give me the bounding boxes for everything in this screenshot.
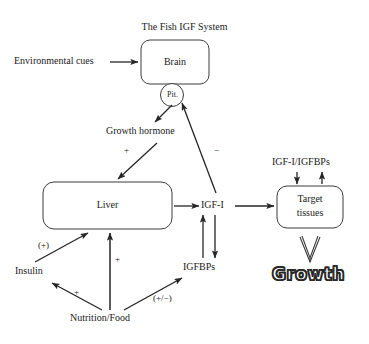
node-growth-hormone: Growth hormone <box>106 126 175 136</box>
edge-label-nutrition-to-igfbps: (+/−) <box>153 294 172 303</box>
edge-label-nutrition-to-liver: + <box>115 255 120 264</box>
edge-pituitary-to-gh <box>155 105 172 122</box>
edge-igf1-to-pituitary <box>182 103 216 193</box>
edge-label-gh-to-liver: + <box>124 146 129 155</box>
node-insulin: Insulin <box>15 266 43 276</box>
node-pituitary: Pit. <box>161 91 184 99</box>
node-environmental-cues: Environmental cues <box>14 56 94 66</box>
node-igf1-igfbps: IGF-I/IGFBPs <box>272 157 330 167</box>
node-nutrition-food: Nutrition/Food <box>70 313 130 323</box>
edge-label-igf1-to-pituitary: − <box>214 146 219 155</box>
node-target-tissues-line1: Target <box>277 194 343 204</box>
edge-label-nutrition-to-insulin: + <box>74 288 79 297</box>
page-title: The Fish IGF System <box>0 22 369 32</box>
node-growth: Growth <box>272 264 345 284</box>
diagram-connectors <box>0 0 369 344</box>
node-brain: Brain <box>141 57 209 67</box>
diagram-canvas: The Fish IGF System Environmental cues B… <box>0 0 369 344</box>
node-igfbps: IGFBPs <box>183 262 215 272</box>
node-target-tissues-line2: tissues <box>277 208 343 218</box>
growth-block-arrow <box>300 236 320 262</box>
node-liver: Liver <box>43 200 172 210</box>
node-igf1: IGF-I <box>201 200 224 210</box>
edge-label-insulin-to-liver: (+) <box>38 241 49 250</box>
